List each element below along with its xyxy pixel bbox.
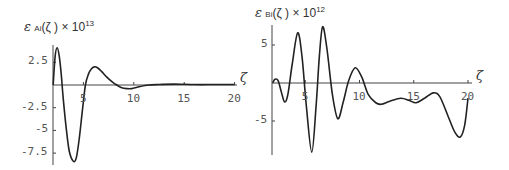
y-tick-label: -5 (35, 122, 48, 135)
x-axis-variable-label: ζ (476, 68, 483, 83)
x-tick-label: 10 (127, 92, 140, 105)
x-tick-label: 10 (353, 90, 366, 103)
x-axis-variable-label: ζ (240, 70, 247, 85)
x-tick-label: 20 (228, 92, 241, 105)
x-tick-label: 5 (80, 92, 87, 105)
x-tick-label: 20 (461, 90, 474, 103)
y-tick-label: -7.5 (21, 145, 48, 158)
x-tick-label: 15 (177, 92, 190, 105)
charts-canvas (0, 0, 509, 170)
y-tick-label: -5 (254, 113, 267, 126)
x-tick-label: 15 (407, 90, 420, 103)
y-tick-label: 2.5 (28, 54, 48, 67)
y-tick-label: 5 (261, 37, 268, 50)
x-tick-label: 5 (302, 90, 309, 103)
y-tick-label: -2.5 (21, 100, 48, 113)
